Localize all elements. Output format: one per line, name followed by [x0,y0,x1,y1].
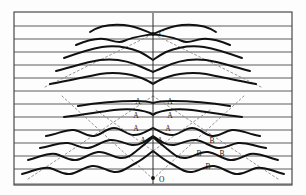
wave-record-section-figure: CO AAAAAAAABBBB [0,0,306,195]
phase-label-a-7: A [140,136,146,145]
phase-label-a-8: A [157,136,163,145]
point-label-o: O [159,175,165,184]
phase-label-a-2: A [167,97,173,106]
phase-label-b-9: B [209,136,214,145]
point-marker-o [151,176,155,180]
phase-label-a-1: A [135,97,141,106]
phase-label-a-4: A [167,111,173,120]
phase-label-b-12: B [205,162,210,171]
phase-label-a-3: A [133,111,139,120]
point-label-c: C [159,29,164,38]
phase-label-a-6: A [165,124,171,133]
point-marker-c [151,32,155,36]
phase-label-b-10: B [196,149,201,158]
figure-root: CO AAAAAAAABBBB [0,0,306,195]
phase-label-b-11: B [219,149,224,158]
phase-label-a-5: A [133,124,139,133]
